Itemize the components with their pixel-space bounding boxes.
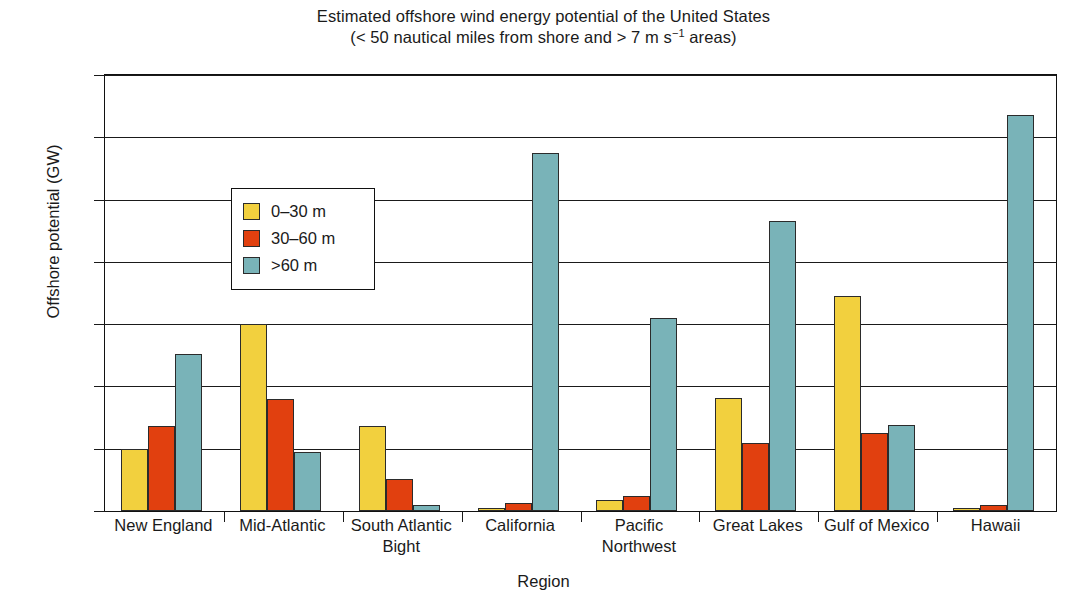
- y-tick-0: [94, 511, 105, 512]
- legend-item-label: 30–60 m: [271, 229, 335, 248]
- bar-2-0: [359, 426, 386, 511]
- chart-subtitle-after: areas): [685, 28, 737, 46]
- bar-4-0: [596, 500, 623, 511]
- bar-5-2: [769, 221, 796, 511]
- chart-legend: 0–30 m30–60 m>60 m: [231, 188, 375, 290]
- bar-1-0: [240, 324, 267, 511]
- y-tick-400: [94, 262, 105, 263]
- bar-7-1: [980, 505, 1007, 511]
- bar-3-0: [478, 508, 505, 511]
- chart-figure: Estimated offshore wind energy potential…: [0, 0, 1087, 613]
- y-tick-500: [94, 200, 105, 201]
- category-label-line: Bight: [306, 536, 496, 557]
- category-label-line: Hawaii: [901, 515, 1087, 536]
- bar-7-0: [953, 508, 980, 511]
- bar-0-0: [121, 449, 148, 511]
- y-tick-600: [94, 137, 105, 138]
- bar-4-2: [650, 318, 677, 511]
- chart-subtitle-before: (< 50 nautical miles from shore and > 7 …: [350, 28, 672, 46]
- bar-5-0: [715, 398, 742, 511]
- bar-2-2: [413, 505, 440, 511]
- bar-6-2: [888, 425, 915, 511]
- y-tick-300: [94, 324, 105, 325]
- legend-item[interactable]: 0–30 m: [243, 198, 364, 225]
- x-axis-title: Region: [0, 572, 1087, 591]
- bar-0-1: [148, 426, 175, 511]
- y-tick-200: [94, 386, 105, 387]
- bar-3-1: [505, 503, 532, 511]
- plot-area: 0100200300400500600700 0–30 m30–60 m>60 …: [104, 74, 1057, 512]
- legend-item-label: 0–30 m: [271, 202, 326, 221]
- legend-swatch-0-30m: [243, 203, 260, 220]
- bar-6-1: [861, 433, 888, 511]
- bar-0-2: [175, 354, 202, 511]
- bar-3-2: [532, 153, 559, 511]
- bar-4-1: [623, 496, 650, 511]
- bar-1-2: [294, 452, 321, 511]
- category-label-7: Hawaii: [901, 515, 1087, 536]
- bar-1-1: [267, 399, 294, 511]
- chart-title: Estimated offshore wind energy potential…: [0, 6, 1087, 27]
- legend-swatch-30-60m: [243, 230, 260, 247]
- chart-title-block: Estimated offshore wind energy potential…: [0, 6, 1087, 49]
- chart-subtitle: (< 50 nautical miles from shore and > 7 …: [0, 27, 1087, 48]
- y-tick-700: [94, 75, 105, 76]
- y-axis-title: Offshore potential (GW): [44, 102, 63, 362]
- bar-7-2: [1007, 115, 1034, 511]
- bar-2-1: [386, 479, 413, 511]
- bar-6-0: [834, 296, 861, 512]
- legend-swatch-over-60m: [243, 257, 260, 274]
- category-label-line: Northwest: [544, 536, 734, 557]
- legend-item[interactable]: 30–60 m: [243, 225, 364, 252]
- y-tick-100: [94, 449, 105, 450]
- bars-layer: [105, 75, 1056, 511]
- legend-item-label: >60 m: [271, 256, 317, 275]
- bar-5-1: [742, 443, 769, 512]
- chart-subtitle-exponent: −1: [672, 27, 685, 39]
- legend-item[interactable]: >60 m: [243, 252, 364, 279]
